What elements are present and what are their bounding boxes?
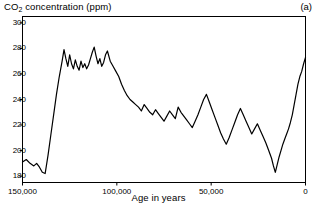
y-tick-label: 280 [0, 43, 26, 52]
y-tick-label: 300 [0, 18, 26, 27]
x-axis-title: Age in years [0, 192, 317, 203]
plot-area [0, 0, 317, 208]
axis-frame [23, 17, 306, 183]
y-tick-label: 200 [0, 146, 26, 155]
y-tick-label: 180 [0, 171, 26, 180]
y-tick-label: 260 [0, 69, 26, 78]
co2-concentration-chart: CO2 concentration (ppm) (a) 300280260240… [0, 0, 317, 208]
y-tick-label: 220 [0, 120, 26, 129]
y-tick-label: 240 [0, 95, 26, 104]
data-series-group [23, 47, 306, 173]
co2-line-series [23, 47, 306, 173]
